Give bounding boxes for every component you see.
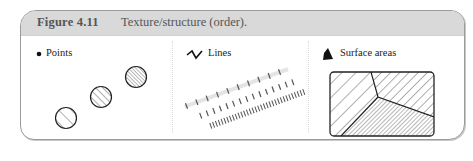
figure-header: Figure 4.11 Texture/structure (order).: [21, 11, 464, 36]
figure-title: Texture/structure (order).: [121, 15, 247, 30]
panel-points: Points: [21, 35, 172, 139]
hatched-circles-illustration: [21, 35, 172, 139]
figure-frame: Figure 4.11 Texture/structure (order). P…: [20, 10, 465, 140]
hatched-regions-illustration: [308, 35, 464, 139]
panel-lines: Lines: [172, 35, 308, 139]
panel-surface-areas: Surface areas: [308, 35, 464, 139]
figure-number: Figure 4.11: [37, 15, 99, 30]
dashed-lines-illustration: [172, 35, 308, 139]
